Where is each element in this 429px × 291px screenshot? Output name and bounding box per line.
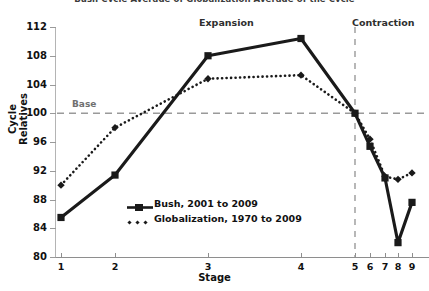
data-point-marker (204, 52, 211, 59)
legend-label-globalization: Globalization, 1970 to 2009 (154, 213, 302, 224)
chart-legend: Bush, 2001 to 2009 Globalization, 1970 t… (127, 197, 302, 225)
legend-label-bush: Bush, 2001 to 2009 (154, 198, 258, 209)
data-point-marker (297, 71, 304, 78)
legend-key-dotted-diamond (127, 213, 153, 224)
chart-container: Bush Cycle Average of Globalization Aver… (0, 0, 429, 291)
series-line-globalization (61, 75, 412, 185)
legend-key-solid-square (127, 198, 153, 209)
data-point-marker (394, 176, 401, 183)
legend-item-globalization: Globalization, 1970 to 2009 (127, 212, 302, 225)
data-point-marker (297, 35, 304, 42)
data-point-marker (394, 239, 401, 246)
legend-item-bush: Bush, 2001 to 2009 (127, 197, 302, 210)
data-point-marker (57, 214, 64, 221)
data-point-marker (111, 171, 118, 178)
plot-area (0, 0, 429, 291)
data-point-marker (408, 169, 415, 176)
data-point-marker (408, 199, 415, 206)
